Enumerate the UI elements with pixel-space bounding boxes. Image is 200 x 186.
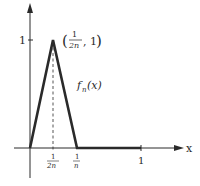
svg-text:, 1: , 1 <box>83 35 97 48</box>
function-graph: 1 x ( 1 2n , 1 ) f n (x) 1 <box>0 0 200 186</box>
peak-label: ( 1 2n , 1 ) <box>62 30 102 50</box>
svg-text:1: 1 <box>75 153 79 161</box>
function-label: f n (x) <box>76 79 102 94</box>
x-axis-arrow-icon <box>174 145 184 151</box>
svg-text:(x): (x) <box>87 79 102 92</box>
svg-text:1: 1 <box>72 30 77 39</box>
svg-text:2n: 2n <box>68 41 79 50</box>
x-tick-label-half-n: 1 2n <box>46 153 59 170</box>
x-tick-label-one: 1 <box>138 155 144 166</box>
y-tick-label: 1 <box>19 34 26 47</box>
svg-text:): ) <box>96 32 102 50</box>
y-axis: 1 <box>19 3 33 178</box>
x-axis-label: x <box>186 142 193 155</box>
svg-text:1: 1 <box>51 153 55 161</box>
svg-text:(: ( <box>62 32 68 50</box>
svg-text:n: n <box>74 162 79 170</box>
y-axis-arrow-icon <box>27 3 33 13</box>
svg-text:2n: 2n <box>46 162 56 170</box>
function-curve <box>30 40 141 148</box>
x-tick-label-n: 1 n <box>73 153 80 170</box>
